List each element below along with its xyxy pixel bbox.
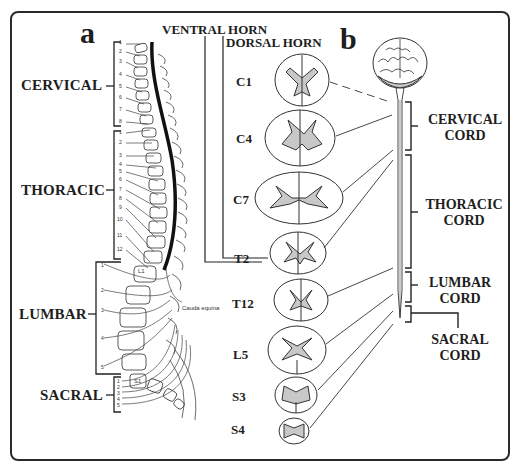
lumbar-bracket — [96, 262, 121, 374]
dorsal-horn-leader — [223, 36, 268, 258]
vertebra-number: 3 — [101, 308, 104, 313]
vertebra-number: 1 — [119, 130, 122, 135]
region-label-cervical: CERVICAL — [21, 78, 102, 93]
vertebra-number: 3 — [119, 153, 122, 158]
vertebra-number: 1 — [119, 40, 122, 45]
vertebra-number: 4 — [119, 162, 122, 167]
vertebra-number: 5 — [117, 403, 120, 408]
cauda-equina-annotation: Cauda equina — [182, 305, 219, 311]
level-label-c7: C7 — [233, 193, 249, 206]
vertebra-number: 11 — [117, 233, 122, 238]
sacral-cord-label: SACRALCORD — [424, 332, 496, 364]
level-label-t2: T2 — [234, 252, 249, 265]
vertebra-number: 2 — [101, 288, 104, 293]
lumbar-cord-bracket — [405, 272, 411, 302]
vertebra-number: 8 — [119, 119, 122, 124]
region-label-thoracic: THORACIC — [21, 183, 105, 198]
level-label-s3: S3 — [232, 390, 246, 403]
vertebra-number: 12 — [117, 247, 123, 252]
vertebra-number: 5 — [119, 84, 122, 89]
level-label-t12: T12 — [232, 297, 254, 310]
vertebra-number: 2 — [119, 49, 122, 54]
vertebra-number: 6 — [119, 177, 122, 182]
vertebra-number: 9 — [119, 205, 122, 210]
vertebra-number: 4 — [101, 336, 104, 341]
vertebra-number: 6 — [119, 95, 122, 100]
s1-annotation: S1 — [134, 378, 141, 384]
cross-sections — [255, 54, 343, 444]
level-label-l5: L5 — [233, 348, 248, 361]
sacral-cord-bracket — [405, 306, 411, 322]
level-label-c1: C1 — [236, 75, 252, 88]
vertebra-number: 5 — [119, 169, 122, 174]
vertebra-number: 4 — [119, 72, 122, 77]
level-label-c4: C4 — [236, 132, 252, 145]
region-label-sacral: SACRAL — [40, 388, 103, 403]
cervical-cord-bracket — [405, 102, 411, 150]
ventral-horn-leader — [205, 36, 262, 262]
vertebra-number: 3 — [119, 59, 122, 64]
panel-b-label: b — [340, 24, 357, 54]
panel-a-label: a — [80, 18, 95, 48]
spinal-cord-b — [396, 88, 404, 318]
vertebra-number: 2 — [119, 140, 122, 145]
region-label-lumbar: LUMBAR — [19, 307, 87, 322]
cervical-cord-label: CERVICALCORD — [423, 112, 507, 144]
vertebra-number: 1 — [101, 263, 104, 268]
vertebra-number: 7 — [119, 187, 122, 192]
vertebra-number: 10 — [117, 217, 123, 222]
thoracic-cord-bracket — [405, 155, 411, 268]
brain — [373, 38, 427, 88]
thoracic-cord-label: THORACICCORD — [420, 197, 508, 229]
l1-annotation: L1 — [138, 268, 145, 274]
dorsal-horn-label: DORSAL HORN — [226, 36, 322, 49]
vertebra-number: 8 — [119, 196, 122, 201]
lumbar-cord-label: LUMBARCORD — [424, 275, 496, 307]
vertebra-number: 7 — [119, 107, 122, 112]
vertebra-number: 5 — [101, 365, 104, 370]
level-label-s4: S4 — [231, 423, 245, 436]
